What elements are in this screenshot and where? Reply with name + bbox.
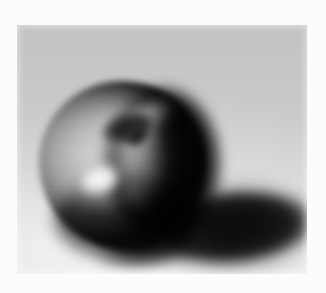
image-canvas: Soft-focus black-and-white photograph of…: [0, 0, 326, 293]
photograph: Soft-focus black-and-white photograph of…: [17, 25, 307, 274]
film-grain: [17, 25, 307, 274]
